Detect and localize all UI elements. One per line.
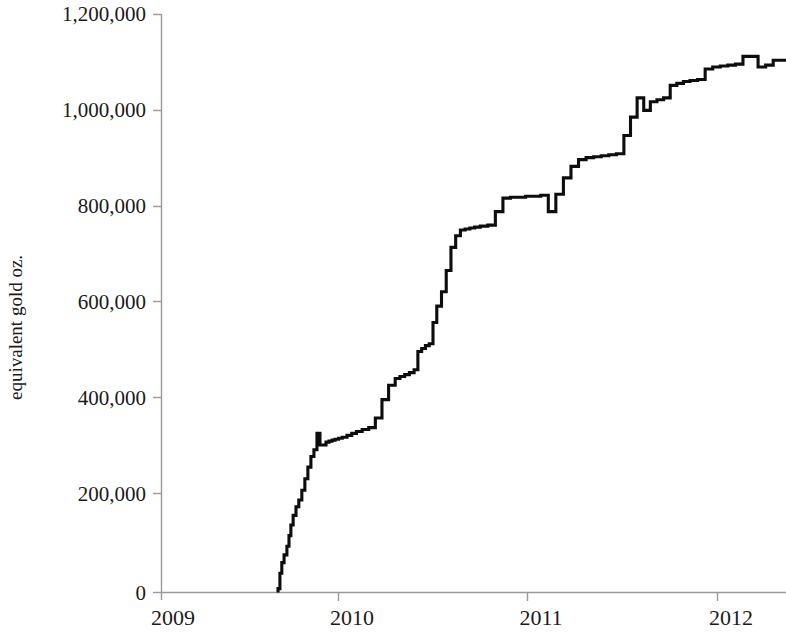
x-axis-tick-labels: 2009 2010 2011 2012 [151, 605, 753, 630]
y-tick-label-600000: 600,000 [78, 290, 146, 314]
x-tick-label-2011: 2011 [519, 605, 562, 630]
y-axis-title: equivalent gold oz. [5, 255, 26, 400]
y-tick-label-1200000: 1,200,000 [62, 2, 146, 26]
x-tick-label-2009: 2009 [151, 605, 195, 630]
y-axis-tick-labels: 1,200,000 1,000,000 800,000 600,000 400,… [62, 2, 146, 605]
x-axis [162, 593, 786, 602]
x-tick-label-2010: 2010 [330, 605, 374, 630]
chart-figure: 1,200,000 1,000,000 800,000 600,000 400,… [0, 0, 786, 635]
equivalent-gold-oz-line-chart: 1,200,000 1,000,000 800,000 600,000 400,… [0, 0, 786, 635]
y-axis [153, 14, 162, 600]
x-tick-label-2012: 2012 [709, 605, 753, 630]
y-tick-label-1000000: 1,000,000 [62, 98, 146, 122]
data-series-line [278, 56, 786, 592]
y-tick-label-400000: 400,000 [78, 386, 146, 410]
y-tick-label-200000: 200,000 [78, 482, 146, 506]
y-tick-label-0: 0 [136, 581, 147, 605]
y-tick-label-800000: 800,000 [78, 194, 146, 218]
